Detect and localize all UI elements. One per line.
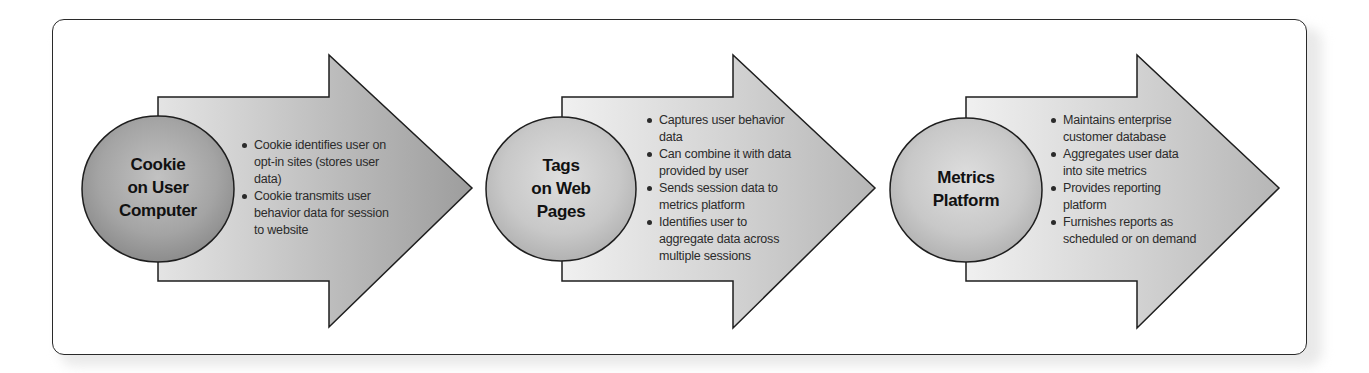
step-3-title-line: Metrics: [891, 166, 1041, 189]
bullet-item: Aggregates user data into site metrics: [1050, 146, 1198, 180]
step-3-title-line: Platform: [891, 189, 1041, 212]
bullet-item: Identifies user to aggregate data across…: [646, 214, 796, 265]
step-2-title-line: Pages: [486, 200, 636, 223]
step-2-title-line: Tags: [486, 154, 636, 177]
bullet-item: Captures user behavior data: [646, 112, 796, 146]
step-1-title: Cookie on User Computer: [83, 153, 233, 222]
step-1-title-line: on User: [83, 176, 233, 199]
bullet-item: Furnishes reports as scheduled or on dem…: [1050, 214, 1198, 248]
step-3-bullet-list: Maintains enterprise customer database A…: [1050, 112, 1198, 248]
step-1-title-line: Computer: [83, 199, 233, 222]
step-1-title-line: Cookie: [83, 153, 233, 176]
bullet-item: Sends session data to metrics platform: [646, 180, 796, 214]
bullet-item: Cookie transmits user behavior data for …: [241, 188, 391, 239]
bullet-item: Cookie identifies user on opt-in sites (…: [241, 137, 391, 188]
step-2-bullet-list: Captures user behavior data Can combine …: [646, 112, 796, 265]
step-1-bullet-list: Cookie identifies user on opt-in sites (…: [241, 137, 391, 239]
bullet-item: Provides reporting platform: [1050, 180, 1198, 214]
bullet-item: Maintains enterprise customer database: [1050, 112, 1198, 146]
step-2-title: Tags on Web Pages: [486, 154, 636, 223]
step-3-title: Metrics Platform: [891, 166, 1041, 212]
step-2-title-line: on Web: [486, 177, 636, 200]
bullet-item: Can combine it with data provided by use…: [646, 146, 796, 180]
